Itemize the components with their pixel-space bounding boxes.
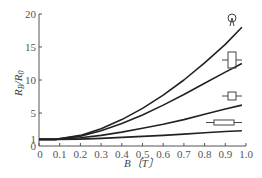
- y-axis-title: RB/R0: [12, 71, 26, 97]
- svg-text:RB/R0: RB/R0: [12, 71, 26, 97]
- x-axis-title: B〔T〕: [124, 157, 159, 169]
- x-tick-label: 0: [37, 148, 43, 160]
- square-icon: [222, 92, 242, 100]
- x-tick-label: 0.2: [74, 148, 88, 160]
- x-tick-label: 0.9: [218, 148, 232, 160]
- y-tick-label: 10: [25, 74, 37, 86]
- x-tick-label: 0.8: [198, 148, 212, 160]
- x-tick-label: 0.3: [94, 148, 108, 160]
- y-tick-label: 15: [25, 41, 37, 53]
- y-tick-label: 5: [31, 107, 37, 119]
- y-tick-label: 1: [31, 133, 37, 145]
- circle-disk-icon: [228, 14, 236, 26]
- shape-icons: [206, 14, 242, 125]
- long-rectangle-icon: [206, 120, 242, 125]
- x-tick-label: 0.7: [177, 148, 191, 160]
- y-tick-label: 20: [25, 8, 37, 20]
- magnetoresistance-chart: 00.10.20.30.40.50.60.70.80.91.0015101520…: [0, 0, 262, 178]
- x-tick-label: 1.0: [239, 148, 253, 160]
- x-tick-label: 0.1: [53, 148, 67, 160]
